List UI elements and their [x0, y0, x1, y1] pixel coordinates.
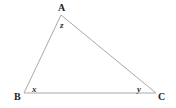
- vertex-label-b: B: [14, 91, 21, 102]
- side-ca: [61, 15, 156, 93]
- vertex-label-a: A: [58, 2, 66, 13]
- side-ab: [24, 15, 61, 93]
- triangle-diagram: A B C z x y: [0, 0, 176, 108]
- vertex-label-c: C: [158, 91, 165, 102]
- angle-label-x: x: [31, 84, 37, 94]
- angle-label-z: z: [59, 20, 64, 30]
